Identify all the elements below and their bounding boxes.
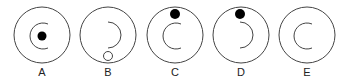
option-b	[80, 7, 136, 63]
outer-circle	[279, 7, 335, 63]
option-e	[279, 7, 335, 63]
inner-arc	[240, 22, 253, 48]
inner-arc	[294, 23, 312, 49]
inner-arc	[108, 22, 121, 48]
filled-dot	[38, 32, 47, 41]
filled-dot	[170, 9, 180, 19]
filled-dot	[235, 9, 245, 19]
option-d	[213, 7, 269, 63]
label-a: A	[32, 66, 52, 78]
option-a	[14, 7, 70, 63]
label-e: E	[297, 66, 317, 78]
label-b: B	[98, 66, 118, 78]
option-c	[147, 7, 203, 63]
label-d: D	[231, 66, 251, 78]
inner-arc	[163, 23, 181, 49]
hollow-dot	[104, 52, 113, 61]
label-c: C	[165, 66, 185, 78]
